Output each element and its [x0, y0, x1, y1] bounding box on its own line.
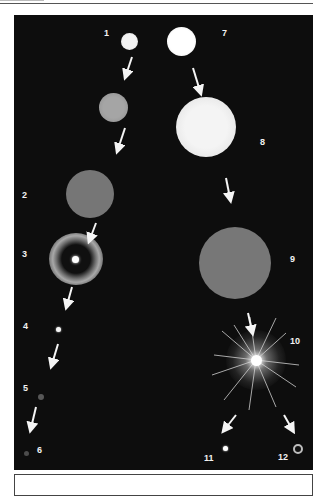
header-rule-light [0, 0, 44, 1]
header-rule [0, 3, 313, 4]
caption-box [14, 474, 313, 496]
stellar-evolution-figure: 1 2 3 4 5 6 7 8 9 10 11 12 [14, 15, 313, 470]
evolution-arrows [14, 15, 313, 470]
